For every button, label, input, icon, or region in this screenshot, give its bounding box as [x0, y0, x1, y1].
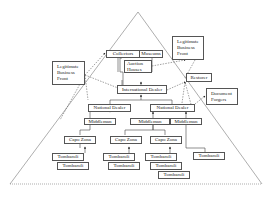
legitimate-business-front-left-box: Legitimate Business Front [52, 61, 85, 85]
tombaroli-box: Tombaroli [158, 171, 190, 179]
tombaroli-box: Tombaroli [103, 153, 135, 161]
capo-zona-box: Capo Zona [110, 136, 142, 144]
restorer-box: Restorer [186, 73, 212, 82]
tombaroli-box: Tombaroli [145, 153, 177, 161]
auction-houses-box: Auction Houses [124, 60, 152, 73]
tombaroli-box: Tombaroli [108, 162, 140, 170]
middleman-box: Middleman [130, 118, 170, 125]
national-dealer-box: National Dealer [88, 104, 131, 112]
tombaroli-box: Tombaroli [52, 153, 84, 161]
collectors-box: Collectors [106, 50, 140, 58]
capo-zona-box: Capo Zona [150, 136, 182, 144]
tombaroli-box: Tombaroli [57, 162, 89, 170]
national-dealer-box: National Dealer [150, 104, 195, 112]
museums-box: Museums [139, 50, 163, 58]
tombaroli-box: Tombaroli [193, 152, 225, 160]
legitimate-business-front-right-box: Legitimate Business Front [172, 36, 204, 60]
document-forgers-box: Document Forgers [206, 88, 238, 105]
tombaroli-box: Tombaroli [150, 162, 182, 170]
capo-zona-box: Capo Zona [64, 136, 96, 144]
international-dealer-box: International Dealer [117, 85, 167, 94]
middleman-box: Middleman [84, 118, 116, 125]
middleman-box: Middleman [170, 118, 202, 125]
